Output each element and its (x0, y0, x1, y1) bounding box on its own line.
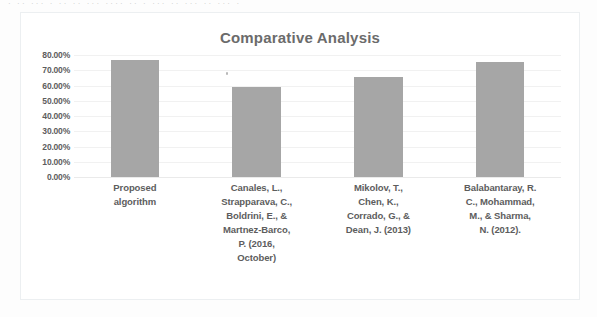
x-axis-line (74, 177, 561, 178)
x-axis-label-line: October) (200, 251, 314, 265)
x-axis-label-line: Chen, K., (322, 195, 436, 209)
x-axis-category-label: Proposedalgorithm (74, 181, 196, 265)
bar-slot (318, 55, 440, 177)
x-axis-label-line: P. (2016, (200, 237, 314, 251)
y-axis-tick-label: 30.00% (22, 126, 70, 136)
scanned-page-background: · ·· ··· · ·· ·· ··· ···· ·· · ··· ·· ··… (0, 0, 597, 317)
y-axis-tick-label: 0.00% (22, 172, 70, 182)
x-axis-label-line: C., Mohammad, (443, 195, 557, 209)
x-axis-label-line: M., & Sharma, (443, 209, 557, 223)
bar-slot (439, 55, 561, 177)
x-axis-label-line: Martnez-Barco, (200, 223, 314, 237)
bar[interactable] (476, 62, 525, 177)
y-axis-tick-label: 70.00% (22, 65, 70, 75)
y-axis-tick-label: 40.00% (22, 111, 70, 121)
y-axis-tick-label: 20.00% (22, 142, 70, 152)
x-axis-category-label: Balabantaray, R.C., Mohammad,M., & Sharm… (439, 181, 561, 265)
x-axis-label-line: Canales, L., (200, 181, 314, 195)
x-axis-label-line: Proposed (78, 181, 192, 195)
bar-slot (74, 55, 196, 177)
x-axis-label-line: Boldrini, E., & (200, 209, 314, 223)
bar-slot (196, 55, 318, 177)
y-axis-tick-label: 60.00% (22, 81, 70, 91)
y-axis-tick-label: 50.00% (22, 96, 70, 106)
x-axis-label-line: Mikolov, T., (322, 181, 436, 195)
scan-artifact-speck (226, 72, 228, 75)
bar[interactable] (111, 60, 160, 177)
chart-container: Comparative Analysis 80.00%70.00%60.00%5… (20, 12, 580, 300)
bar[interactable] (354, 77, 403, 177)
x-axis-label-line: Balabantaray, R. (443, 181, 557, 195)
plot-area: 80.00%70.00%60.00%50.00%40.00%30.00%20.0… (74, 55, 561, 177)
y-axis-tick-label: 80.00% (22, 50, 70, 60)
x-axis-label-line: Strapparava, C., (200, 195, 314, 209)
y-axis-tick-label: 10.00% (22, 157, 70, 167)
chart-title: Comparative Analysis (21, 29, 579, 46)
y-axis: 80.00%70.00%60.00%50.00%40.00%30.00%20.0… (22, 55, 70, 177)
x-axis-label-line: Corrado, G., & (322, 209, 436, 223)
bar[interactable] (232, 87, 281, 177)
bar-series (74, 55, 561, 177)
x-axis-label-line: N. (2012). (443, 223, 557, 237)
x-axis: ProposedalgorithmCanales, L.,Strapparava… (74, 181, 561, 265)
page-text-fragment: · ·· ··· · ·· ·· ··· ···· ·· · ··· ·· ··… (8, 0, 568, 7)
x-axis-label-line: algorithm (78, 195, 192, 209)
x-axis-label-line: Dean, J. (2013) (322, 223, 436, 237)
x-axis-category-label: Mikolov, T.,Chen, K.,Corrado, G., &Dean,… (318, 181, 440, 265)
x-axis-category-label: Canales, L.,Strapparava, C.,Boldrini, E.… (196, 181, 318, 265)
